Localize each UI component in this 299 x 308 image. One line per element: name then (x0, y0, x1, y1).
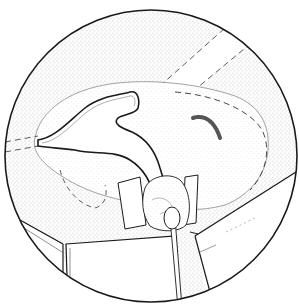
surgical-illustration (0, 0, 299, 308)
illustration-canvas (0, 0, 299, 308)
